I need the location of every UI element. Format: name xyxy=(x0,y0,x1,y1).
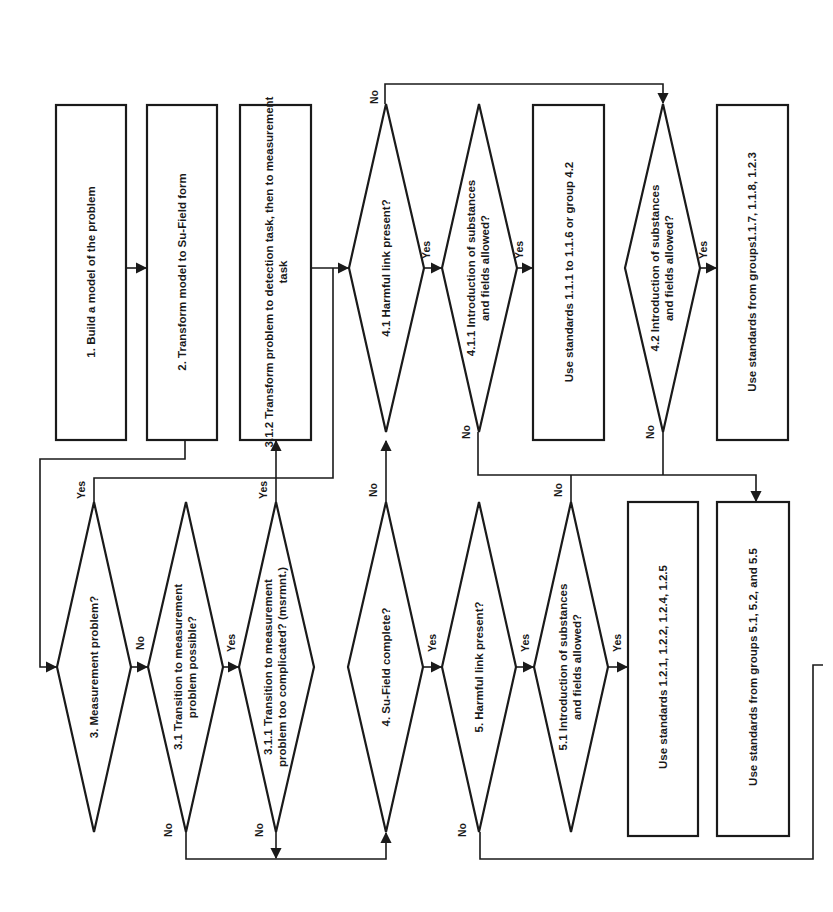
node-42-label-line2: and fields allowed? xyxy=(663,215,675,321)
label-51-yes: Yes xyxy=(611,634,623,652)
label-411-no: No xyxy=(460,425,472,439)
node-51box-label: Use standards from groups 5.1, 5.2, and … xyxy=(747,548,759,786)
label-311-no: No xyxy=(253,823,265,837)
label-31-no: No xyxy=(162,823,174,837)
label-4-yes: Yes xyxy=(426,634,438,652)
label-31-yes: Yes xyxy=(225,634,237,652)
node-311-label-line2: problem too complicated? (msrmnt.) xyxy=(276,567,288,767)
node-51-label-line1: 5.1 Introduction of substances xyxy=(557,584,569,751)
label-411-yes: Yes xyxy=(513,241,525,259)
node-3-label: 3. Measurement problem? xyxy=(88,596,100,739)
node-1-label: 1. Build a model of the problem xyxy=(85,186,97,357)
label-51-no: No xyxy=(552,483,564,497)
label-311-yes: Yes xyxy=(257,481,269,499)
node-5-label: 5. Harmful link present? xyxy=(473,601,485,732)
label-42-no: No xyxy=(644,425,656,439)
node-111-label: Use standards 1.1.1 to 1.1.6 or group 4.… xyxy=(563,162,575,383)
label-4-no: No xyxy=(367,483,379,497)
node-51-label-line2: and fields allowed? xyxy=(571,614,583,720)
node-312-label-line2: task xyxy=(277,260,289,284)
node-411-label-line1: 4.1.1 Introduction of substances xyxy=(465,180,477,356)
node-311-label-line1: 3.1.1 Transition to measurement xyxy=(262,579,274,755)
edge-31-no xyxy=(186,832,386,859)
label-41-no: No xyxy=(368,90,380,104)
node-121-label: Use standards 1.2.1, 1.2.2, 1.2.4, 1.2.5 xyxy=(657,564,669,769)
label-41-yes: Yes xyxy=(420,241,432,259)
node-41-label: 4.1 Harmful link present? xyxy=(380,199,392,336)
node-42-label-line1: 4.2 Introduction of substances xyxy=(649,185,661,352)
label-42-yes: Yes xyxy=(697,241,709,259)
process-box-312 xyxy=(240,105,311,440)
edge-41-no xyxy=(385,84,663,104)
label-5-yes: Yes xyxy=(519,634,531,652)
node-2-label: 2. Transform model to Su-Field form xyxy=(176,173,188,370)
node-411-label-line2: and fields allowed? xyxy=(479,215,491,321)
flowchart-canvas: 1. Build a model of the problem 2. Trans… xyxy=(0,0,833,912)
label-3-no: No xyxy=(134,636,146,650)
node-4-label: 4. Su-Field complete? xyxy=(380,608,392,727)
label-3-yes: Yes xyxy=(75,481,87,499)
node-117-label: Use standards from groups1.1.7, 1.1.8, 1… xyxy=(746,152,758,392)
node-312-label-line1: 3.1.2 Transform problem to detection tas… xyxy=(263,96,275,447)
label-5-no: No xyxy=(456,823,468,837)
node-31-label-line1: 3.1 Transition to measurement xyxy=(172,584,184,750)
edge-411-no xyxy=(478,432,756,501)
node-31-label-line2: problem possible? xyxy=(186,616,198,718)
